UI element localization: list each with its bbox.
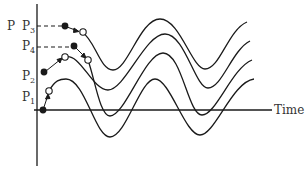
p1-open-point	[46, 88, 52, 94]
svg-text:3: 3	[30, 26, 35, 35]
wave-curve-1	[82, 19, 247, 70]
p3-filled-point	[62, 23, 69, 30]
p1-filled-point	[40, 107, 47, 114]
p2-filled-point	[41, 69, 48, 76]
p3-open-point	[80, 29, 86, 35]
label-p3: P 3	[22, 19, 35, 35]
svg-text:2: 2	[30, 76, 35, 85]
p1-arrowhead	[46, 94, 51, 99]
p3-arrowhead	[74, 28, 80, 33]
p2-arrowhead	[57, 58, 62, 63]
p4-open-point	[85, 57, 91, 63]
phase-diagram: Time P P 3 P 4 P 2 P 1	[0, 0, 305, 173]
svg-text:1: 1	[30, 97, 35, 106]
svg-text:P: P	[22, 19, 30, 33]
svg-text:P: P	[22, 90, 30, 104]
time-axis-label: Time	[274, 103, 304, 117]
wave-curve-4	[49, 79, 254, 137]
svg-text:P: P	[22, 39, 30, 53]
svg-text:4: 4	[30, 46, 35, 55]
p4-filled-point	[71, 43, 78, 50]
svg-text:P: P	[22, 69, 30, 83]
wave-curve-3	[88, 53, 252, 116]
label-p2: P 2	[22, 69, 35, 85]
label-p4: P 4	[22, 39, 35, 55]
label-p1: P 1	[22, 90, 35, 106]
y-axis-label: P	[7, 19, 15, 33]
p2-open-point	[62, 54, 68, 60]
wave-curve-2	[65, 34, 250, 90]
